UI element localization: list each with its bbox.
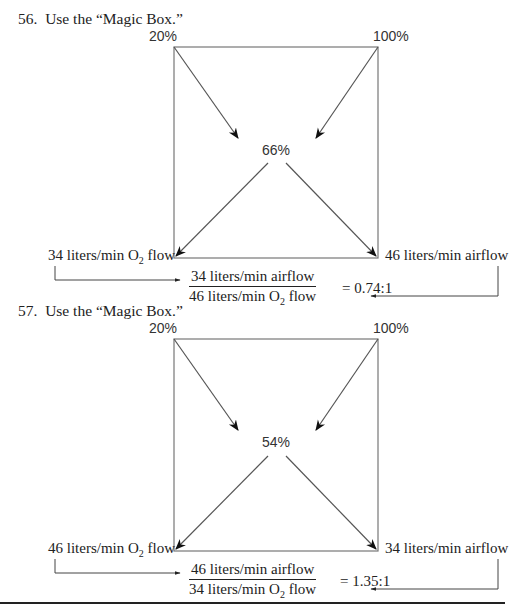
bottom-right-label: 34 liters/min airflow	[385, 540, 508, 557]
problem-instruction: Use the “Magic Box.”	[45, 10, 183, 27]
problem-instruction: Use the “Magic Box.”	[45, 302, 183, 319]
fraction-numerator: 46 liters/min airflow	[189, 561, 316, 580]
bottom-left-label: 34 liters/min O2 flow	[48, 247, 175, 266]
center-percent: 54%	[262, 434, 290, 450]
top-right-percent: 100%	[373, 320, 409, 336]
problem-number: 56.	[18, 10, 37, 27]
top-left-percent: 20%	[149, 28, 177, 44]
problem-number: 57.	[18, 302, 37, 319]
ratio-fraction: 34 liters/min airflow 46 liters/min O2 f…	[189, 268, 316, 307]
top-left-percent: 20%	[149, 320, 177, 336]
fraction-denominator: 34 liters/min O2 flow	[189, 580, 316, 600]
fraction-numerator: 34 liters/min airflow	[189, 268, 316, 287]
problem-56-heading: 56. Use the “Magic Box.”	[18, 10, 183, 28]
bottom-right-label: 46 liters/min airflow	[385, 247, 508, 264]
fraction-denominator: 46 liters/min O2 flow	[189, 287, 316, 307]
center-percent: 66%	[262, 142, 290, 158]
top-right-percent: 100%	[373, 28, 409, 44]
ratio-result: = 1.35:1	[340, 573, 390, 590]
ratio-result: = 0.74:1	[342, 280, 392, 297]
ratio-fraction: 46 liters/min airflow 34 liters/min O2 f…	[189, 561, 316, 600]
bottom-left-label: 46 liters/min O2 flow	[48, 540, 175, 559]
problem-57-heading: 57. Use the “Magic Box.”	[18, 302, 183, 320]
